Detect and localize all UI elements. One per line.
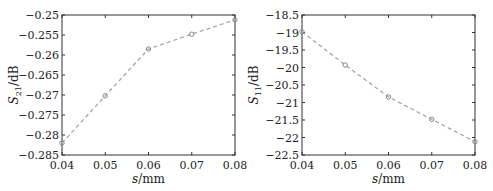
data-line [62, 20, 235, 143]
plot-frame [302, 15, 475, 155]
y-tick-label: −0.265 [18, 69, 59, 82]
x-axis-label: s/mm [372, 172, 406, 186]
y-tick-label: −20 [276, 62, 299, 75]
y-tick-label: −18.5 [265, 9, 299, 22]
x-tick-label: 0.06 [376, 159, 401, 172]
x-tick-label: 0.07 [180, 159, 205, 172]
y-tick-label: −0.26 [25, 49, 59, 62]
x-tick-label: 0.08 [223, 159, 248, 172]
x-tick-label: 0.05 [93, 159, 118, 172]
y-tick-label: −19 [276, 27, 299, 40]
data-point [343, 63, 347, 67]
y-tick-label: −22 [276, 132, 299, 145]
x-tick-label: 0.06 [136, 159, 161, 172]
chart-1: 0.040.050.060.070.08−0.25−0.255−0.26−0.2… [7, 9, 247, 186]
data-line [302, 32, 475, 142]
y-tick-label: −0.285 [18, 149, 59, 162]
y-axis-label: S11/dB [247, 65, 263, 104]
y-tick-label: −19.5 [265, 44, 299, 57]
x-tick-label: 0.07 [420, 159, 445, 172]
y-tick-label: −22.5 [265, 149, 299, 162]
y-tick-label: −0.27 [25, 89, 59, 102]
chart-2: 0.040.050.060.070.08−18.5−19−19.5−20−20.… [247, 9, 487, 186]
y-axis-label: S21/dB [7, 65, 23, 104]
y-tick-label: −20.5 [265, 79, 299, 92]
y-tick-label: −0.275 [18, 109, 59, 122]
y-tick-label: −0.28 [25, 129, 59, 142]
plot-frame [62, 15, 235, 155]
x-tick-label: 0.05 [333, 159, 358, 172]
y-tick-label: −0.255 [18, 29, 59, 42]
y-tick-label: −21.5 [265, 114, 299, 127]
x-axis-label: s/mm [132, 172, 166, 186]
y-tick-label: −0.25 [25, 9, 59, 22]
x-tick-label: 0.08 [463, 159, 488, 172]
y-tick-label: −21 [276, 97, 299, 110]
chart-canvas: 0.040.050.060.070.08−0.25−0.255−0.26−0.2… [0, 0, 493, 191]
